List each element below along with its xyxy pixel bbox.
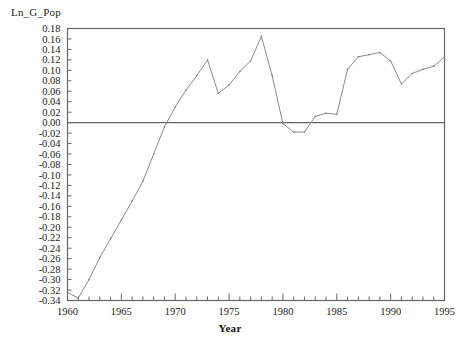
y-tick-label: 0.04 <box>42 96 61 107</box>
data-point-marker <box>110 238 112 240</box>
x-tick-label: 1960 <box>57 306 78 317</box>
data-point-marker <box>164 126 166 128</box>
y-tick-label: -0.34 <box>39 295 62 306</box>
y-tick-label: 0.00 <box>42 117 60 128</box>
data-point-marker <box>358 56 360 58</box>
plot-frame-border <box>68 29 445 301</box>
x-tick-label: 1975 <box>219 306 240 317</box>
data-point-marker <box>411 73 413 75</box>
x-tick-label: 1980 <box>272 306 293 317</box>
data-point-marker <box>131 200 133 202</box>
data-point-marker-group <box>67 36 446 299</box>
data-point-marker <box>218 93 220 95</box>
x-tick-label-group: 19601965197019751980198519901995 <box>57 306 455 317</box>
data-point-marker <box>379 52 381 54</box>
y-tick-label: -0.14 <box>39 190 62 201</box>
x-tick-label: 1995 <box>434 306 455 317</box>
y-tick-label: 0.10 <box>42 65 60 76</box>
data-point-marker <box>401 83 403 85</box>
y-tick-label: -0.28 <box>39 264 61 275</box>
data-point-marker <box>261 36 263 38</box>
y-tick-label: 0.08 <box>42 75 60 86</box>
chart-figure: Ln_G_Pop 0.180.160.140.120.100.080.060.0… <box>0 0 460 343</box>
y-axis-label: Ln_G_Pop <box>11 6 61 18</box>
data-point-marker <box>77 297 79 299</box>
x-tick-label: 1965 <box>111 306 132 317</box>
y-tick-label: -0.24 <box>39 243 62 254</box>
y-tick-label: -0.02 <box>39 128 61 139</box>
y-tick-label: -0.06 <box>39 149 61 160</box>
data-point-marker <box>282 123 284 125</box>
y-tick-label: 0.16 <box>42 34 60 45</box>
y-tick-label: -0.12 <box>39 180 61 191</box>
x-tick-label: 1985 <box>326 306 347 317</box>
data-point-marker <box>99 257 101 259</box>
y-tick-label: -0.22 <box>39 232 61 243</box>
data-point-marker <box>88 279 90 281</box>
y-tick-label: -0.16 <box>39 201 61 212</box>
y-tick-label: -0.04 <box>39 138 62 149</box>
data-point-marker <box>336 113 338 115</box>
data-point-marker <box>185 89 187 91</box>
y-tick-label: -0.18 <box>39 211 61 222</box>
y-tick-label: -0.26 <box>39 253 61 264</box>
y-tick-label: -0.10 <box>39 170 61 181</box>
x-tick-label: 1970 <box>165 306 186 317</box>
data-point-marker <box>121 219 123 221</box>
data-point-marker <box>271 75 273 77</box>
data-point-marker <box>142 180 144 182</box>
data-point-marker <box>293 131 295 133</box>
data-point-marker <box>67 292 69 294</box>
data-point-marker <box>250 60 252 62</box>
y-tick-label: -0.20 <box>39 222 61 233</box>
data-point-marker <box>207 59 209 61</box>
y-tick-label-group: 0.180.160.140.120.100.080.060.040.020.00… <box>39 23 62 306</box>
data-point-marker <box>390 60 392 62</box>
x-tick-mark-group <box>68 294 445 301</box>
data-point-marker <box>444 56 446 58</box>
y-tick-label: 0.12 <box>42 54 60 65</box>
y-tick-label: -0.08 <box>39 159 61 170</box>
line-chart-plot-area: 0.180.160.140.120.100.080.060.040.020.00… <box>0 0 460 343</box>
y-tick-label: 0.06 <box>42 86 60 97</box>
data-point-marker <box>239 71 241 73</box>
y-tick-label: 0.18 <box>42 23 60 34</box>
data-point-marker <box>228 84 230 86</box>
data-point-marker <box>368 54 370 56</box>
data-point-marker <box>196 75 198 77</box>
data-point-marker <box>347 69 349 71</box>
data-series-line <box>68 36 445 298</box>
data-point-marker <box>422 69 424 71</box>
data-point-marker <box>433 65 435 67</box>
x-axis-label: Year <box>0 322 460 334</box>
x-tick-label: 1990 <box>380 306 401 317</box>
y-tick-label: -0.30 <box>39 274 61 285</box>
data-point-marker <box>304 131 306 133</box>
data-point-marker <box>153 153 155 155</box>
y-tick-label: 0.02 <box>42 107 60 118</box>
data-point-marker <box>174 106 176 108</box>
y-tick-label: -0.32 <box>39 285 61 296</box>
data-point-marker <box>325 112 327 114</box>
y-tick-label: 0.14 <box>42 44 61 55</box>
data-point-marker <box>314 116 316 118</box>
